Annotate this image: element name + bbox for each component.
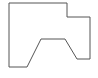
diagram-canvas bbox=[0, 0, 98, 78]
outline-polygon bbox=[9, 3, 90, 67]
